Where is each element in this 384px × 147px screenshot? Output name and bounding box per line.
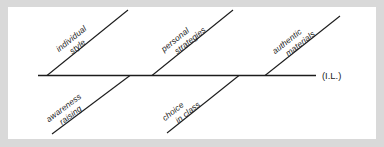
spine-end-label: (I.L.) — [322, 70, 341, 81]
fishbone-diagram: individual style personal strategies aut… — [0, 0, 384, 147]
